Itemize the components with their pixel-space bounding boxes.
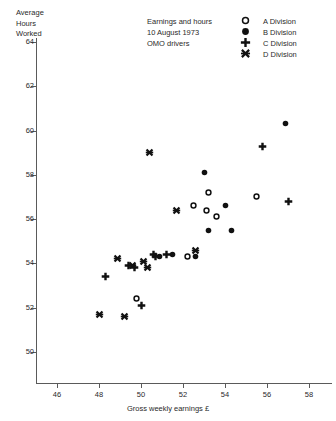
y-tick-label: 62 [12,82,34,90]
y-axis-line [36,38,37,383]
legend-marker-plus-icon [240,37,251,48]
y-axis-title: Average Hours Worked [16,8,44,40]
x-tick-mark [183,383,184,388]
data-point-plus [162,250,171,259]
x-tick-label: 48 [86,391,112,399]
y-tick-label: 60 [12,127,34,135]
x-tick-label: 56 [254,391,280,399]
caption-line-2: 10 August 1973 [147,27,212,38]
chart-caption: Earnings and hours 10 August 1973 OMO dr… [147,16,212,49]
legend-label: D Division [263,49,297,60]
data-point-cross-x [143,263,152,272]
y-tick-label: 52 [12,304,34,312]
data-point-plus [149,250,158,259]
data-point-filled-circle [200,168,209,177]
data-point-plus [284,197,293,206]
x-axis-line [36,383,332,384]
x-axis-title: Gross weekly earnings £ [0,404,336,413]
data-point-open-circle [204,188,213,197]
legend-label: A Division [263,16,296,27]
legend-label: C Division [263,38,297,49]
x-tick-mark [309,383,310,388]
legend-marker-cross-x-icon [240,48,251,59]
x-tick-label: 50 [128,391,154,399]
x-tick-label: 46 [44,391,70,399]
x-tick-mark [141,383,142,388]
data-point-filled-circle [281,119,290,128]
data-point-open-circle [189,201,198,210]
scatter-plot-figure: Average Hours Worked Earnings and hours … [0,0,336,421]
x-tick-label: 52 [170,391,196,399]
y-tick-label: 58 [12,171,34,179]
x-tick-mark [57,383,58,388]
y-tick-label: 64 [12,38,34,46]
data-point-open-circle [212,212,221,221]
data-point-cross-x [128,261,137,270]
caption-line-1: Earnings and hours [147,16,212,27]
caption-line-3: OMO drivers [147,38,212,49]
data-point-plus [137,301,146,310]
data-point-cross-x [120,312,129,321]
data-point-open-circle [252,192,261,201]
legend-marker-filled-circle-icon [240,26,251,37]
data-point-cross-x [172,206,181,215]
y-tick-label: 56 [12,215,34,223]
x-tick-mark [225,383,226,388]
data-point-cross-x [145,148,154,157]
y-tick-label: 50 [12,348,34,356]
x-tick-label: 58 [296,391,322,399]
x-tick-mark [267,383,268,388]
data-point-open-circle [202,206,211,215]
data-point-filled-circle [204,226,213,235]
y-tick-label: 54 [12,259,34,267]
data-point-plus [258,142,267,151]
data-point-filled-circle [221,201,230,210]
data-point-cross-x [95,310,104,319]
data-point-plus [101,272,110,281]
data-point-cross-x [191,246,200,255]
data-point-filled-circle [227,226,236,235]
legend-label: B Division [263,27,296,38]
x-tick-mark [99,383,100,388]
x-tick-label: 54 [212,391,238,399]
data-point-cross-x [113,254,122,263]
legend-marker-open-circle-icon [240,15,251,26]
